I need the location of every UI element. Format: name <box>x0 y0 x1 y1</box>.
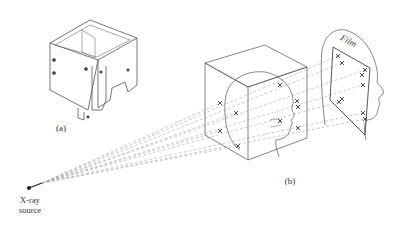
fiducial-marker <box>340 97 344 101</box>
xray-beam <box>42 56 338 183</box>
fiducial-marker <box>218 129 222 133</box>
rivet <box>85 68 88 71</box>
xray-beam <box>42 119 365 183</box>
rivet <box>53 72 56 75</box>
xray-beam <box>42 63 342 183</box>
rivet <box>87 116 89 118</box>
film-plane <box>330 47 370 135</box>
cube-top-face <box>205 45 307 87</box>
fiducial-marker <box>296 105 300 109</box>
xray-source-label-line2: source <box>19 205 41 215</box>
fiducial-marker <box>363 68 367 72</box>
xray-source-label-line1: X-ray <box>20 195 41 205</box>
panel-a-label: (a) <box>56 123 66 133</box>
cube-left-face <box>205 63 248 160</box>
fiducial-marker <box>234 111 238 115</box>
diagram-canvas: (a) X-ray source Film (b) <box>0 0 393 226</box>
cube-right-face <box>248 67 307 160</box>
apparatus-right-face <box>98 38 137 108</box>
fiducial-marker <box>336 54 340 58</box>
fiducial-marker <box>295 99 299 103</box>
rivet <box>53 59 56 62</box>
xray-beam <box>42 113 236 183</box>
rivet <box>100 71 102 73</box>
apparatus-left-face <box>50 43 98 110</box>
head-ear <box>270 119 282 127</box>
apparatus-clamp <box>78 108 84 120</box>
xray-beams <box>42 56 365 183</box>
fiducial-marker <box>340 61 344 65</box>
xray-beam <box>42 103 220 183</box>
fiducial-marker <box>278 83 282 87</box>
xray-source-nozzle <box>29 183 42 188</box>
apparatus-front-tube <box>92 66 106 110</box>
xray-beam <box>42 131 220 183</box>
fiducial-marker <box>296 126 300 130</box>
fiducial-markers <box>218 54 367 148</box>
fiducial-marker <box>361 83 365 87</box>
apparatus-drawing <box>50 20 137 120</box>
fiducial-marker <box>218 101 222 105</box>
xray-beam <box>42 113 363 183</box>
apparatus-inner-column <box>82 30 95 58</box>
fiducial-marker <box>236 144 240 148</box>
fiducial-marker <box>360 73 364 77</box>
panel-b-label: (b) <box>285 176 296 186</box>
apparatus-top-inner <box>55 25 130 57</box>
apparatus-top-frame <box>50 20 137 60</box>
xray-beam <box>42 146 238 183</box>
xray-beam <box>42 70 365 183</box>
rivet <box>127 69 129 71</box>
